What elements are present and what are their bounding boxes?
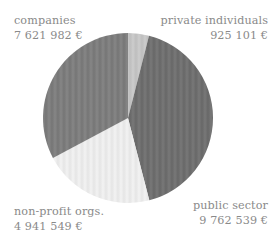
pie-chart-figure: companies 7 621 982 € private individual… <box>0 0 278 237</box>
pie-chart-area <box>43 33 213 203</box>
pie-label-companies-name: companies <box>14 13 83 28</box>
pie-label-public-sector: public sector 9 762 539 € <box>193 198 268 228</box>
pie-label-non-profit-orgs-value: 4 941 549 € <box>14 219 104 234</box>
pie-label-public-sector-value: 9 762 539 € <box>193 213 268 228</box>
pie-label-companies-value: 7 621 982 € <box>14 28 83 43</box>
pie-label-non-profit-orgs-name: non-profit orgs. <box>14 204 104 219</box>
pie-chart-svg <box>43 33 213 203</box>
pie-label-non-profit-orgs: non-profit orgs. 4 941 549 € <box>14 204 104 234</box>
pie-label-private-individuals-name: private individuals <box>161 13 268 28</box>
pie-texture-overlay <box>43 33 213 203</box>
pie-label-companies: companies 7 621 982 € <box>14 13 83 43</box>
pie-label-public-sector-name: public sector <box>193 198 268 213</box>
pie-label-private-individuals-value: 925 101 € <box>161 28 268 43</box>
pie-label-private-individuals: private individuals 925 101 € <box>161 13 268 43</box>
